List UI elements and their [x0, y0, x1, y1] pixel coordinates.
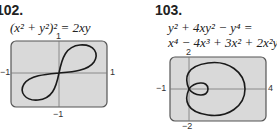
graph-103-ymax: 2 [186, 47, 191, 57]
graph-102-xmax: 1 [110, 67, 115, 77]
graphs [0, 0, 277, 130]
graph-102-xmin: −1 [0, 67, 10, 77]
graph-103-ymin: −2 [182, 121, 192, 130]
graph-103-xmax: 4 [268, 83, 273, 93]
graph-103 [170, 57, 266, 121]
graph-102-ymin: −1 [53, 109, 63, 119]
graph-103-xmin: −1 [156, 83, 166, 93]
graph-102 [11, 41, 107, 107]
graph-102-ymax: 1 [56, 31, 61, 41]
